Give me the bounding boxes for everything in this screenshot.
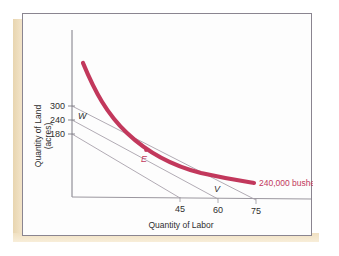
x-axis: [72, 197, 311, 199]
label-point-w: W: [78, 111, 88, 121]
y-axis-title-line2: (acres): [43, 123, 53, 150]
isocost-line-high: [72, 106, 256, 200]
scanned-figure-page: 300 240 180 45 60 75 W V E 240,000 bushe…: [0, 0, 339, 256]
label-point-v: V: [214, 184, 221, 194]
x-tick-label-75: 75: [251, 206, 261, 216]
x-tick-label-60: 60: [213, 205, 223, 215]
isoquant-curve: [83, 63, 254, 183]
isoquant-value-label: 240,000 bushels: [259, 178, 313, 188]
tangency-point-marker: [144, 148, 148, 152]
figure-frame: 300 240 180 45 60 75 W V E 240,000 bushe…: [22, 13, 312, 236]
isoquant-chart: 300 240 180 45 60 75 W V E 240,000 bushe…: [23, 14, 313, 237]
x-axis-title: Quantity of Labor: [148, 220, 213, 230]
y-tick-label-300: 300: [50, 101, 65, 111]
label-point-e: E: [141, 154, 148, 164]
isocost-line-low: [72, 134, 180, 198]
x-tick-label-45: 45: [175, 204, 185, 214]
y-axis-title-line1: Quantity of Land: [33, 105, 43, 168]
